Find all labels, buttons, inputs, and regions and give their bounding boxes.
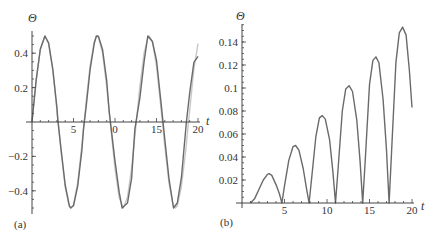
panel-a-label: (a) <box>14 218 27 231</box>
panel-a-x-tick-label: 5 <box>71 123 77 135</box>
panel-b-series-line <box>251 27 413 203</box>
panel-a-y-tick-label: 0.4 <box>14 47 28 59</box>
panel-a-y-axis-label: Θ <box>28 11 37 25</box>
panel-a-x-tick-label: 0 <box>112 123 118 135</box>
figure: 501520−0.4−0.20.20.4 Θ t (a) 51015200.02… <box>0 0 435 236</box>
panel-b-x-tick-label: 20 <box>407 204 419 216</box>
panel-b-y-tick-label: 0.12 <box>219 59 238 71</box>
panel-b-y-tick-label: 0.02 <box>219 174 238 186</box>
panel-b-x-axis-label: t <box>421 199 425 213</box>
panel-b-y-tick-label: 0.14 <box>219 36 239 48</box>
panel-b-x-tick-label: 10 <box>322 204 334 216</box>
panel-b-curves <box>251 27 413 203</box>
panel-a-x-tick-label: 15 <box>151 123 163 135</box>
panel-b-x-tick-label: 5 <box>282 204 288 216</box>
panel-b-x-tick-label: 15 <box>364 204 376 216</box>
panel-b-y-tick-label: 0.06 <box>219 128 239 140</box>
panel-a-axes: 501520−0.4−0.20.20.4 <box>8 31 204 214</box>
panel-a-y-tick-label: −0.4 <box>8 185 28 197</box>
panel-b-label: (b) <box>220 216 233 229</box>
panel-b-y-tick-label: 0.04 <box>219 151 239 163</box>
panel-a-x-tick-label: 20 <box>193 123 205 135</box>
panel-b-y-tick-label: 0.08 <box>219 105 239 117</box>
panel-b-y-tick-label: 0.1 <box>224 82 238 94</box>
panel-a-y-tick-label: −0.2 <box>8 150 28 162</box>
panel-a-chart: 501520−0.4−0.20.20.4 Θ t (a) <box>8 11 210 231</box>
panel-b-chart: 51015200.020.040.060.080.10.120.14 Θ t (… <box>219 9 425 229</box>
panel-b-y-axis-label: Θ <box>236 9 245 23</box>
panel-a-y-tick-label: 0.2 <box>14 82 28 94</box>
panel-a-x-axis-label: t <box>206 114 210 128</box>
